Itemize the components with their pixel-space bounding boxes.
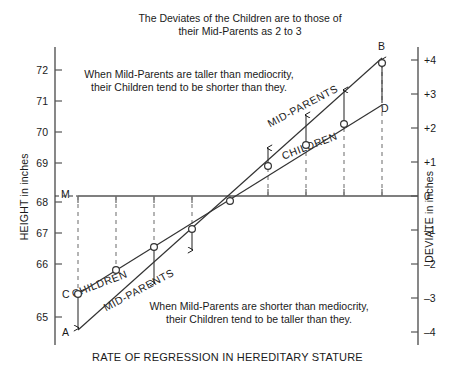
ordinate-dashed-lines <box>78 63 382 294</box>
plot-area <box>0 0 455 373</box>
data-point-marker <box>189 226 196 233</box>
data-point-marker <box>341 121 348 128</box>
data-point-marker <box>227 198 234 205</box>
data-point-marker <box>303 142 310 149</box>
children-data-markers <box>75 60 386 298</box>
data-point-marker <box>75 291 82 298</box>
data-point-marker <box>151 244 158 251</box>
data-point-marker <box>113 267 120 274</box>
data-point-marker <box>379 60 386 67</box>
series-line-mid-parents <box>78 58 382 330</box>
galton-regression-figure: The Deviates of the Children are to thos… <box>0 0 455 373</box>
data-point-marker <box>265 163 272 170</box>
